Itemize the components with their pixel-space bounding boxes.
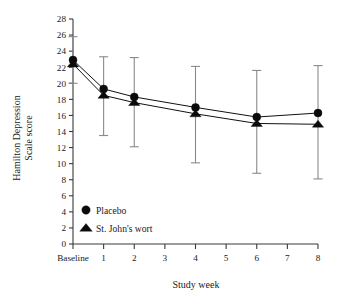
y-axis-title-line-1: Hamilton Depression [11,95,22,180]
y-tick-label: 2 [61,223,66,233]
y-tick-label: 24 [57,46,67,56]
y-tick-label: 0 [61,239,66,249]
chart-background [0,0,342,300]
chart-figure: 0246810121416182022242628 Baseline123456… [0,0,342,300]
x-tick-label: 6 [254,253,259,263]
y-tick-label: 12 [57,143,67,153]
y-tick-label: 20 [57,79,67,89]
x-tick-label: 4 [193,253,198,263]
legend-marker-circle [82,206,90,214]
x-tick-label: 1 [101,253,106,263]
y-axis-title-line-2: Scale score [23,115,34,161]
y-tick-label: 16 [57,111,67,121]
y-tick-label: 22 [57,63,67,73]
legend-label: Placebo [96,205,127,216]
x-tick-label: 2 [132,253,137,263]
x-tick-label: 5 [224,253,229,263]
y-tick-label: 28 [57,14,67,24]
y-tick-label: 18 [57,95,67,105]
legend-label: St. John's wort [96,223,153,234]
x-tick-label: Baseline [57,253,89,263]
y-tick-label: 8 [61,175,66,185]
y-tick-label: 6 [61,191,66,201]
x-axis-title: Study week [173,279,220,290]
y-tick-label: 10 [57,159,67,169]
x-tick-label: 7 [285,253,290,263]
x-tick-label: 3 [163,253,168,263]
y-tick-label: 4 [61,207,66,217]
x-tick-label: 8 [316,253,321,263]
data-point-circle [314,109,322,117]
y-tick-label: 26 [57,30,67,40]
hamilton-depression-line-chart: 0246810121416182022242628 Baseline123456… [0,0,342,300]
y-tick-label: 14 [57,127,67,137]
